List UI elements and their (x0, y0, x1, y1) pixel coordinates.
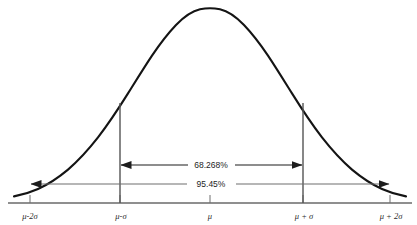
two-sigma-interval-label: 95.45% (197, 179, 226, 189)
axis-label-mu-minus-2sigma: μ-2σ (21, 211, 38, 221)
axis-tick-labels: μ-2σ μ-σ μ μ + σ μ + 2σ (21, 211, 403, 221)
two-sigma-interval-annotation: 95.45% (31, 179, 389, 189)
sigma-interval-annotation: 68.268% (121, 160, 302, 170)
normal-distribution-figure: 68.268% 95.45% μ-2σ μ-σ μ μ + σ μ + 2σ (0, 0, 417, 225)
sigma-interval-label: 68.268% (194, 160, 228, 170)
distribution-chart-svg: 68.268% 95.45% μ-2σ μ-σ μ μ + σ μ + 2σ (0, 0, 417, 225)
axis-label-mu: μ (207, 211, 212, 221)
horizontal-axis (8, 195, 412, 203)
axis-label-mu-plus-2sigma: μ + 2σ (379, 211, 404, 221)
axis-label-mu-minus-sigma: μ-σ (114, 211, 127, 221)
axis-label-mu-plus-sigma: μ + σ (294, 211, 314, 221)
